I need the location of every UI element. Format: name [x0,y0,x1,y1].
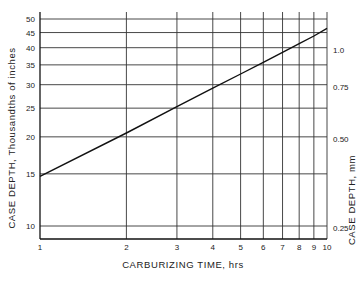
y-tick-label: 40 [26,44,35,53]
y-tick-label: 35 [26,61,35,70]
y-axis-label: CASE DEPTH, Thousandths of inches [6,47,17,228]
y-tick-label: 30 [26,81,35,90]
x-tick-label: 4 [211,243,216,252]
case-depth-line [40,28,327,176]
x-tick-label: 3 [175,243,180,252]
x-tick-label: 7 [280,243,285,252]
x-axis-label: CARBURIZING TIME, hrs [122,259,244,270]
y-tick-label: 45 [26,29,35,38]
y-right-axis-label: CASE DEPTH, mm [346,155,357,245]
x-tick-label: 5 [238,243,243,252]
y-tick-label: 25 [26,104,35,113]
grid-lines [40,12,327,239]
x-tick-label: 9 [312,243,317,252]
x-tick-label: 10 [323,243,332,252]
axes [40,12,327,239]
x-tick-labels: 12345678910 [38,243,332,252]
y-tick-label: 15 [26,170,35,179]
y-tick-label: 50 [26,15,35,24]
y-right-tick-label: 1.0 [333,46,345,55]
y-right-tick-label: 0.50 [333,135,349,144]
x-tick-label: 2 [124,243,129,252]
case-depth-chart: 101520253035404550 0.250.500.751.0 12345… [0,0,358,285]
x-tick-label: 8 [297,243,302,252]
y-tick-label: 20 [26,133,35,142]
x-tick-label: 1 [38,243,43,252]
y-tick-label: 10 [26,222,35,231]
x-tick-label: 6 [261,243,266,252]
y-tick-labels: 101520253035404550 [26,15,35,231]
y-right-tick-label: 0.75 [333,83,349,92]
